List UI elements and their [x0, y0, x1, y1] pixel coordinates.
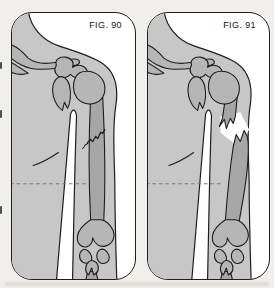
anatomy-illustration-fig-90	[12, 13, 135, 279]
scan-artifact-mark	[0, 110, 2, 118]
scan-artifact-mark	[0, 206, 2, 214]
figure-label: FIG. 91	[223, 20, 256, 30]
panel-fig-90: FIG. 90	[11, 12, 136, 280]
humerus-shaft-bone	[89, 97, 105, 220]
scan-artifact-mark	[0, 62, 2, 69]
scan-shadow	[5, 282, 269, 286]
anatomy-illustration-fig-91	[148, 13, 269, 279]
panel-fig-91: FIG. 91	[147, 12, 270, 280]
scanned-figure-page: FIG. 90 FIG. 91	[0, 0, 274, 288]
figure-label: FIG. 90	[89, 20, 122, 30]
